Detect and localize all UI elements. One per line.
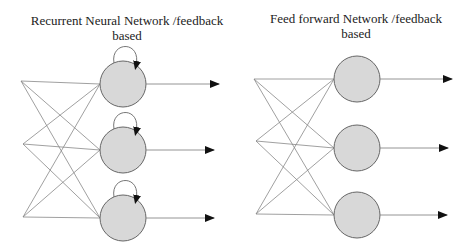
neuron-node: [334, 125, 380, 171]
feedforward-network-diagram: [254, 56, 452, 238]
connection-edge: [256, 214, 334, 215]
connection-edge: [254, 79, 334, 148]
neuron-node: [100, 127, 146, 173]
connection-edge: [256, 79, 334, 214]
connection-edge: [23, 144, 100, 150]
neuron-node: [334, 192, 380, 238]
connection-edge: [23, 217, 100, 218]
neuron-node: [334, 56, 380, 102]
connection-edge: [21, 81, 100, 84]
connection-edge: [21, 81, 100, 218]
connection-edge: [21, 81, 100, 150]
connection-edge: [256, 79, 334, 141]
network-diagrams-canvas: [0, 0, 469, 251]
recurrent-network-diagram: [21, 46, 219, 241]
neuron-node: [100, 61, 146, 107]
neuron-node: [100, 195, 146, 241]
